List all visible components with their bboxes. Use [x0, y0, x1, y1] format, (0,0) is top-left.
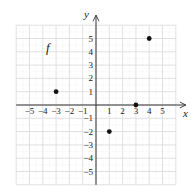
y-tick-label: −2 [83, 127, 93, 137]
x-tick-label: 5 [160, 106, 165, 116]
y-tick-label: 5 [89, 34, 94, 44]
data-point [107, 129, 112, 134]
y-tick-label: 1 [89, 87, 94, 97]
x-tick-label: 4 [147, 106, 152, 116]
x-tick-label: 1 [107, 106, 112, 116]
y-axis-label: y [83, 8, 89, 20]
y-tick-label: −5 [83, 167, 93, 177]
y-tick-label: 4 [89, 47, 94, 57]
y-tick-label: −1 [83, 113, 93, 123]
x-tick-label: −4 [38, 106, 48, 116]
function-label: f [46, 40, 52, 55]
coordinate-plane: −5−4−3−2−112345−5−4−3−2−112345 f x y [0, 0, 195, 192]
data-point [147, 36, 152, 41]
x-tick-label: 3 [134, 106, 139, 116]
data-point [134, 103, 139, 108]
x-tick-label: −2 [65, 106, 75, 116]
data-point [54, 89, 59, 94]
axes [16, 15, 186, 185]
y-tick-label: −3 [83, 140, 93, 150]
graph-of-f: −5−4−3−2−112345−5−4−3−2−112345 f x y [0, 0, 195, 192]
y-tick-label: 2 [89, 73, 94, 83]
x-tick-label: −5 [25, 106, 35, 116]
x-tick-label: 2 [120, 106, 125, 116]
x-axis-label: x [182, 107, 188, 119]
y-tick-label: 3 [89, 60, 94, 70]
x-tick-label: −3 [51, 106, 61, 116]
y-tick-label: −4 [83, 153, 93, 163]
